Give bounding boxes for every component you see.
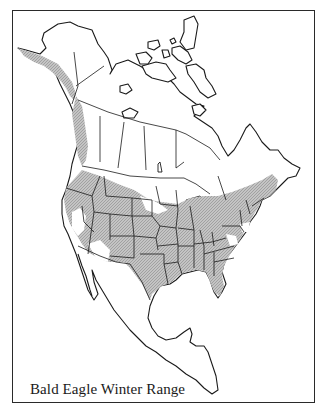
- north-america-map: [0, 0, 325, 413]
- map-title: Bald Eagle Winter Range: [30, 381, 185, 398]
